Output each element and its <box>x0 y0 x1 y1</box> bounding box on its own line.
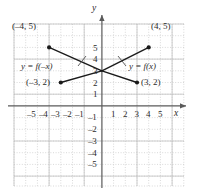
point-neg3-2 <box>59 80 63 84</box>
y-tick-1: 1 <box>93 90 97 99</box>
y-tick-minus-3: –3 <box>88 137 96 146</box>
y-tick-minus-4: –4 <box>88 149 96 158</box>
x-tick-3: 3 <box>135 110 139 119</box>
y-tick-2: 2 <box>93 79 97 88</box>
y-tick-minus-2: –2 <box>88 125 96 134</box>
y-tick-4: 4 <box>93 55 97 64</box>
curve-label-f-of-x: y = f(x) <box>129 62 156 71</box>
x-axis-label: x <box>174 109 178 119</box>
point-3-2 <box>135 80 139 84</box>
x-tick-minus-2: –2 <box>63 110 71 119</box>
point-label-3-2: (3, 2) <box>141 78 161 87</box>
curve-label-f-of-negative-x: y = f(–x) <box>21 62 53 71</box>
x-tick-5: 5 <box>158 110 162 119</box>
y-tick-minus-1: –1 <box>88 113 96 122</box>
graph-figure: x y –5 –4 –3 –2 –1 1 2 3 4 5 5 4 3 2 1 –… <box>0 0 198 194</box>
x-tick-minus-1: –1 <box>75 110 83 119</box>
x-tick-1: 1 <box>111 110 115 119</box>
point-label-neg3-2: (–3, 2) <box>26 78 50 87</box>
x-tick-minus-5: –5 <box>27 110 35 119</box>
point-label-4-5: (4, 5) <box>151 22 171 31</box>
y-tick-3: 3 <box>93 67 97 76</box>
x-tick-minus-4: –4 <box>39 110 47 119</box>
x-tick-2: 2 <box>123 110 127 119</box>
point-4-5 <box>147 45 151 49</box>
y-axis-label: y <box>92 4 96 14</box>
x-tick-minus-3: –3 <box>51 110 59 119</box>
y-tick-5: 5 <box>93 44 97 53</box>
x-tick-4: 4 <box>146 110 150 119</box>
point-label-neg4-5: (–4, 5) <box>12 22 36 31</box>
point-neg4-5 <box>47 45 51 49</box>
y-tick-minus-5: –5 <box>88 160 96 169</box>
